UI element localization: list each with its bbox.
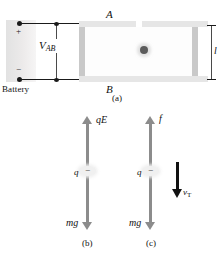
- figure-millikan-oil-drop: + − Battery VAB A B l (a) − q qE mg (b) …: [0, 0, 224, 256]
- capacitor-left-wall: [79, 27, 85, 76]
- force-label-mg-b: mg: [66, 217, 78, 228]
- charge-label-b: q: [74, 167, 79, 177]
- force-label-qe: qE: [96, 114, 107, 125]
- separation-measure-line: [211, 26, 212, 80]
- voltage-symbol: V: [39, 39, 46, 51]
- velocity-subscript: T: [187, 191, 191, 199]
- battery-negative-sign: −: [16, 65, 21, 73]
- battery-positive-sign: +: [16, 27, 21, 35]
- charge-label-c: q: [137, 167, 142, 177]
- plate-label-a: A: [106, 8, 113, 20]
- voltage-subscript: AB: [46, 44, 56, 53]
- velocity-arrow-head: [172, 189, 182, 198]
- battery-label: Battery: [2, 84, 29, 94]
- oil-droplet: [140, 46, 148, 54]
- voltage-measure-bottom-node: [54, 78, 59, 82]
- force-label-mg-c: mg: [129, 217, 141, 228]
- voltage-measure-top-node: [54, 22, 59, 26]
- wire-bottom: [19, 79, 81, 80]
- capacitor-bottom-plate: [79, 76, 208, 82]
- velocity-arrow-shaft: [176, 162, 179, 190]
- force-arrow-down-head-c: [145, 222, 155, 230]
- force-label-f: f: [159, 113, 162, 124]
- caption-a: (a): [112, 93, 122, 103]
- caption-c: (c): [146, 238, 156, 248]
- caption-b: (b): [82, 238, 93, 248]
- capacitor-right-wall: [192, 27, 198, 76]
- velocity-label: vT: [183, 187, 191, 199]
- separation-label: l: [214, 45, 217, 56]
- capacitor-interior: [85, 27, 192, 76]
- separation-measure-bottom-cap: [207, 79, 216, 80]
- charge-sign-c: −: [148, 166, 153, 175]
- wire-top: [19, 23, 81, 24]
- separation-measure-top-cap: [207, 25, 216, 26]
- charge-sign-b: −: [85, 166, 90, 175]
- voltage-label: VAB: [38, 39, 57, 53]
- force-arrow-down-head-b: [82, 222, 92, 230]
